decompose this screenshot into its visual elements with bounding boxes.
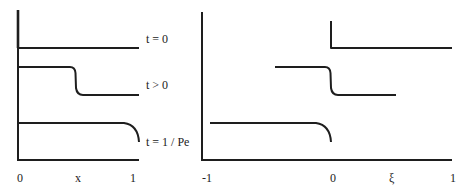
right-panel	[202, 12, 452, 160]
right-curve-t-one-over-pe	[210, 123, 331, 142]
label-t-positive: t > 0	[146, 79, 168, 91]
right-tick-0: 0	[330, 172, 336, 184]
label-t0: t = 0	[146, 33, 168, 45]
left-tick-0: 0	[17, 172, 23, 184]
diagram-canvas	[0, 0, 471, 193]
label-t-one-over-pe: t = 1 / Pe	[146, 136, 189, 148]
right-tick-minus-1: -1	[202, 172, 212, 184]
left-curve-t-one-over-pe	[18, 123, 139, 142]
left-curve-t-positive	[18, 67, 139, 95]
left-axis-label-x: x	[75, 172, 81, 184]
right-tick-1: 1	[450, 172, 456, 184]
left-tick-1: 1	[130, 172, 136, 184]
left-axes	[18, 10, 139, 160]
right-curve-t-positive	[275, 67, 396, 95]
right-axis-label-xi: ξ	[389, 172, 394, 184]
right-curve-t0	[331, 21, 452, 48]
right-axes	[202, 12, 452, 160]
left-panel	[18, 10, 139, 160]
